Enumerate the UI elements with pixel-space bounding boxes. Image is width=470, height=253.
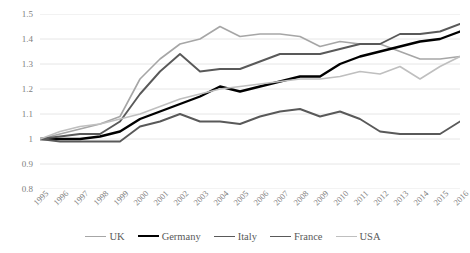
legend-swatch-germany xyxy=(138,235,159,237)
legend-swatch-uk xyxy=(85,236,106,237)
x-axis-tick-label: 2007 xyxy=(267,189,290,212)
legend-item-france[interactable]: France xyxy=(270,231,323,242)
x-axis-tick-label: 2009 xyxy=(307,189,330,212)
x-axis-tick-label: 2002 xyxy=(167,189,190,212)
legend-label: UK xyxy=(109,231,124,242)
x-axis-tick-label: 2010 xyxy=(327,189,350,212)
x-axis-tick-label: 2012 xyxy=(367,189,390,212)
series-line-france xyxy=(40,24,460,139)
y-axis-tick-label: 1.2 xyxy=(22,85,33,94)
chart-legend: UKGermanyItalyFranceUSA xyxy=(0,226,466,246)
legend-item-germany[interactable]: Germany xyxy=(138,231,201,242)
legend-item-usa[interactable]: USA xyxy=(336,231,381,242)
legend-swatch-italy xyxy=(214,236,235,237)
legend-label: Italy xyxy=(238,231,257,242)
legend-label: Germany xyxy=(162,231,201,242)
x-axis-tick-label: 2000 xyxy=(127,189,150,212)
legend-label: France xyxy=(294,231,323,242)
series-line-uk xyxy=(40,27,460,140)
y-axis-tick-label: 1.1 xyxy=(22,110,33,119)
x-axis-tick-label: 1998 xyxy=(87,189,110,212)
y-axis-tick-label: 1 xyxy=(29,135,34,144)
y-axis-tick-label: 1.3 xyxy=(22,60,33,69)
x-axis-tick-label: 2005 xyxy=(227,189,250,212)
x-axis-tick-label: 2001 xyxy=(147,189,170,212)
x-axis-tick-label: 1999 xyxy=(107,189,130,212)
x-axis-tick-label: 2011 xyxy=(347,189,370,212)
legend-swatch-usa xyxy=(336,236,357,237)
series-line-usa xyxy=(40,57,460,140)
x-axis-tick-label: 2016 xyxy=(447,189,470,212)
x-axis-tick-label: 2004 xyxy=(207,189,230,212)
gridlines xyxy=(40,14,460,189)
legend-item-uk[interactable]: UK xyxy=(85,231,124,242)
legend-item-italy[interactable]: Italy xyxy=(214,231,257,242)
x-axis-tick-label: 2013 xyxy=(387,189,410,212)
x-axis-tick-label: 1997 xyxy=(67,189,90,212)
x-axis-tick-label: 1996 xyxy=(47,189,70,212)
y-axis: 1.51.41.31.21.110.90.8 xyxy=(0,0,38,189)
x-axis: 1995199619971998199920002001200220032004… xyxy=(40,189,466,229)
x-axis-tick-label: 2015 xyxy=(427,189,450,212)
y-axis-tick-label: 1.5 xyxy=(22,10,33,19)
legend-swatch-france xyxy=(270,236,291,237)
series-lines xyxy=(40,24,460,142)
x-axis-tick-label: 2014 xyxy=(407,189,430,212)
plot-svg xyxy=(40,14,460,189)
legend-label: USA xyxy=(360,231,381,242)
x-axis-tick-label: 2006 xyxy=(247,189,270,212)
y-axis-tick-label: 1.4 xyxy=(22,35,33,44)
y-axis-tick-label: 0.9 xyxy=(22,160,33,169)
plot-area xyxy=(40,14,460,189)
x-axis-tick-label: 2003 xyxy=(187,189,210,212)
y-axis-tick-label: 0.8 xyxy=(22,185,33,194)
x-axis-tick-label: 2008 xyxy=(287,189,310,212)
